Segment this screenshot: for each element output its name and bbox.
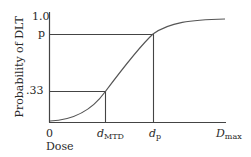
x-tick-d-mtd: dMTD [97, 128, 124, 143]
chart-plot [0, 0, 251, 157]
d-max-main: D [216, 127, 225, 140]
d-p-sub: p [156, 132, 161, 141]
y-tick-1: 1.0 [32, 11, 50, 23]
d-mtd-main: d [97, 127, 104, 140]
y-tick-p: p [38, 28, 45, 40]
p-reference-line [50, 35, 154, 123]
d-max-sub: max [225, 132, 242, 141]
x-axis-label: Dose [46, 141, 74, 153]
mtd-reference-line [50, 92, 106, 123]
d-p-main: d [149, 127, 156, 140]
y-tick-33: .33 [26, 85, 44, 97]
y-axis-label: Probability of DLT [13, 28, 26, 118]
x-tick-0: 0 [46, 128, 53, 140]
x-tick-d-p: dp [149, 128, 161, 143]
x-tick-d-max: Dmax [216, 128, 242, 143]
d-mtd-sub: MTD [104, 132, 124, 141]
